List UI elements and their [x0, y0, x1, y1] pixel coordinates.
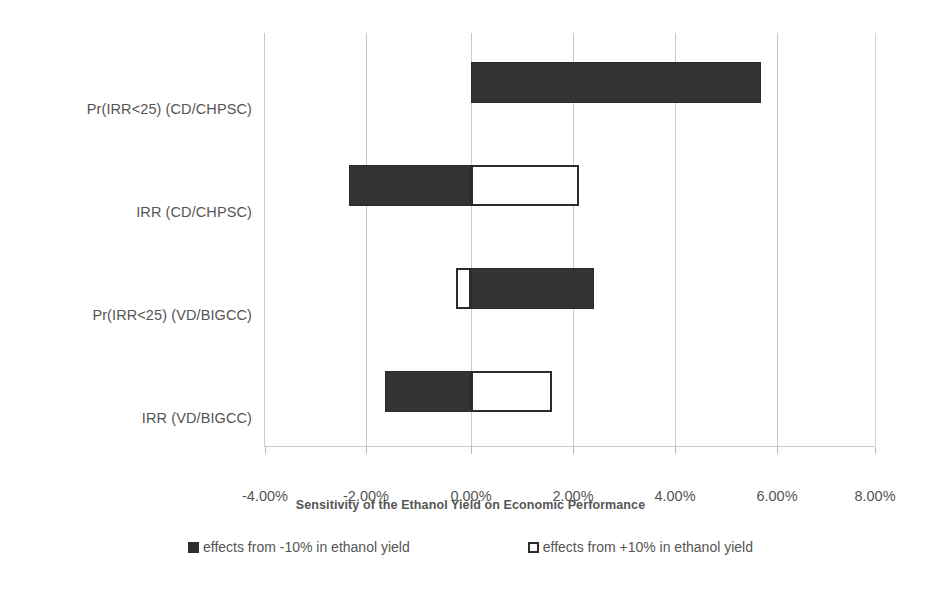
- xtick-mark-minus-4: [265, 447, 266, 454]
- bar-series-negative-1: [349, 165, 471, 206]
- y-axis-label-2: Pr(IRR<25) (VD/BIGCC): [0, 307, 252, 323]
- bar-series-negative-0: [471, 62, 761, 103]
- bar-series-positive-1: [471, 165, 579, 206]
- legend-label-negative: effects from -10% in ethanol yield: [203, 539, 410, 555]
- xtick-mark-0: [471, 447, 472, 454]
- gridline-minus-2: [366, 33, 367, 446]
- hollow-square-icon: [528, 542, 539, 553]
- plot-area: -4.00% -2.00% 0.00% 2.00% 4.00% 6.00% 8.…: [264, 33, 875, 447]
- gridline-8: [875, 33, 876, 446]
- y-axis-label-1: IRR (CD/CHPSC): [0, 204, 252, 220]
- bar-series-negative-3: [385, 371, 471, 412]
- y-axis-category-labels: Pr(IRR<25) (CD/CHPSC) IRR (CD/CHPSC) Pr(…: [0, 33, 258, 447]
- filled-square-icon: [188, 542, 199, 553]
- legend-item-positive: effects from +10% in ethanol yield: [528, 539, 753, 555]
- legend-item-negative: effects from -10% in ethanol yield: [188, 539, 410, 555]
- y-axis-label-3: IRR (VD/BIGCC): [0, 410, 252, 426]
- bar-series-positive-2: [456, 268, 471, 309]
- gridline-6: [777, 33, 778, 446]
- xtick-mark-minus-2: [366, 447, 367, 454]
- sensitivity-bar-chart: Pr(IRR<25) (CD/CHPSC) IRR (CD/CHPSC) Pr(…: [0, 0, 941, 597]
- xtick-mark-8: [875, 447, 876, 454]
- bar-series-negative-2: [471, 268, 594, 309]
- bar-series-positive-3: [471, 371, 552, 412]
- x-axis-title: Sensitivity of the Ethanol Yield on Econ…: [0, 498, 941, 512]
- y-axis-label-0: Pr(IRR<25) (CD/CHPSC): [0, 101, 252, 117]
- legend-label-positive: effects from +10% in ethanol yield: [543, 539, 753, 555]
- xtick-mark-2: [573, 447, 574, 454]
- chart-legend: effects from -10% in ethanol yield effec…: [0, 539, 941, 555]
- xtick-mark-4: [675, 447, 676, 454]
- xtick-mark-6: [777, 447, 778, 454]
